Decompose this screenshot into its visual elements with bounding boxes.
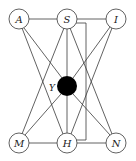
- node-s-label: S: [64, 14, 71, 25]
- edge-a-y: [24, 28, 62, 78]
- network-diagram: A S I M H N Y: [0, 0, 136, 161]
- node-a-label: A: [14, 14, 22, 25]
- node-h-label: H: [62, 138, 72, 149]
- center-node-y-label: Y: [49, 83, 56, 93]
- node-m-label: M: [13, 138, 25, 149]
- node-n-label: N: [111, 138, 122, 149]
- edge-s-h-bracket: [76, 23, 86, 140]
- center-node-y[interactable]: [57, 76, 77, 96]
- edge-i-y: [73, 27, 110, 78]
